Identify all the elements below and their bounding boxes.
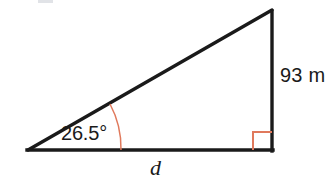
angle-arc-icon xyxy=(110,104,121,150)
triangle-diagram-canvas: 26.5° 93 m d xyxy=(0,0,328,185)
triangle-figure-svg xyxy=(0,0,328,185)
angle-measure-label: 26.5° xyxy=(61,123,107,143)
height-measure-label: 93 m xyxy=(280,65,325,85)
base-variable-label: d xyxy=(150,157,161,179)
right-angle-square-icon xyxy=(253,132,272,150)
